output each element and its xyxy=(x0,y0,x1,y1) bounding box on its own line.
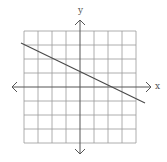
coordinate-graph: x y xyxy=(0,0,167,162)
y-axis-label: y xyxy=(77,5,84,15)
x-axis xyxy=(12,82,151,92)
x-axis-label: x xyxy=(155,81,160,91)
